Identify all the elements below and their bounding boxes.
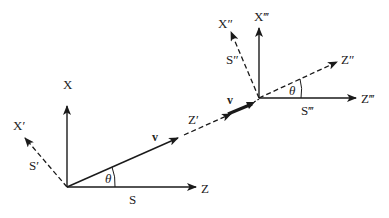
right-frame: X‴ Z‴ X″ Z″ S″ S‴ v θ <box>218 9 375 118</box>
x-double-prime-label: X″ <box>218 16 233 31</box>
s-double-prime-label: S″ <box>226 52 239 67</box>
z-double-prime-label: Z″ <box>341 52 354 67</box>
diagram-canvas: X Z X′ Z′ S S′ v θ X‴ Z‴ X″ Z″ S″ S‴ v θ <box>0 0 389 218</box>
x-axis-label: X <box>63 77 73 92</box>
velocity-label: v <box>152 130 158 144</box>
x-prime-axis-label: X′ <box>13 118 25 133</box>
z-prime-axis-label: Z′ <box>188 112 199 127</box>
frames-diagram: X Z X′ Z′ S S′ v θ X‴ Z‴ X″ Z″ S″ S‴ v θ <box>0 0 389 218</box>
velocity-label-right: v <box>227 93 233 107</box>
z-double-prime-axis <box>259 62 337 98</box>
s-prime-frame-label: S′ <box>29 158 39 173</box>
z-triple-prime-label: Z‴ <box>361 91 375 106</box>
theta-arc-right <box>300 79 302 98</box>
velocity-dash-right <box>254 99 259 102</box>
x-triple-prime-label: X‴ <box>254 9 269 24</box>
z-axis-label: Z <box>201 181 209 196</box>
theta-label: θ <box>105 171 112 186</box>
s-frame-label: S <box>129 192 136 207</box>
theta-label-right: θ <box>289 83 296 98</box>
left-frame: X Z X′ Z′ S S′ v θ <box>13 77 231 207</box>
velocity-vector <box>67 138 178 187</box>
theta-arc <box>112 167 115 187</box>
s-triple-prime-label: S‴ <box>301 103 314 118</box>
